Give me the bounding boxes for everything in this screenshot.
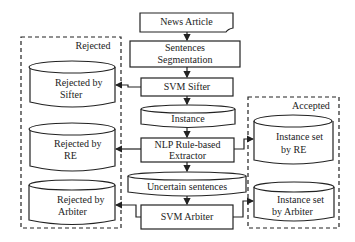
instance-set-by-re-label-1: Instance set (276, 131, 323, 143)
instance-set-by-arbiter-label-2: by Arbiter (272, 206, 313, 218)
news-article-label: News Article (140, 16, 233, 28)
instance-set-by-arbiter-label-1: Instance set (277, 194, 324, 206)
instance-label: Instance (141, 113, 235, 125)
sentences-segmentation-label-2: Segmentation (130, 54, 240, 66)
accepted-group-title: Accepted (285, 100, 337, 112)
nlp-extractor-label-2: Extractor (141, 150, 234, 162)
instance-set-by-re-label-2: by RE (281, 144, 306, 156)
rejected-by-re-label-1: Rejected by (54, 138, 101, 150)
rejected-by-sifter-label-1: Rejected by (55, 77, 102, 89)
svm-arbiter-label: SVM Arbiter (141, 211, 233, 223)
sentences-segmentation-label-1: Sentences (130, 42, 240, 54)
rejected-by-arbiter-label-2: Arbiter (58, 206, 87, 218)
rejected-by-arbiter-label-1: Rejected by (57, 194, 104, 206)
svm-sifter-label: SVM Sifter (141, 81, 233, 93)
rejected-by-re-label-2: RE (64, 150, 77, 162)
uncertain-sentences-label: Uncertain sentences (128, 181, 246, 193)
rejected-by-sifter-label-2: Sifter (60, 89, 82, 101)
rejected-group-title: Rejected (68, 40, 118, 52)
